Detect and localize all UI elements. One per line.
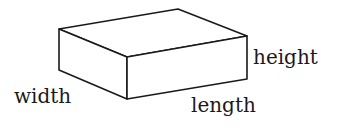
rectangular-prism-diagram: width length height bbox=[0, 0, 338, 132]
length-label: length bbox=[191, 95, 256, 115]
width-label: width bbox=[14, 86, 71, 106]
height-label: height bbox=[253, 47, 318, 67]
